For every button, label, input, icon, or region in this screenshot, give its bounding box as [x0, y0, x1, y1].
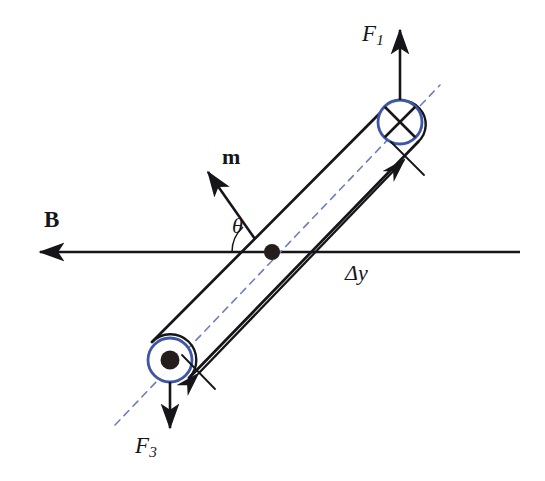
diagram-canvas — [0, 0, 545, 481]
physics-diagram: F1 F3 m B θ Δy — [0, 0, 545, 481]
loop-edge-lower-right — [189, 142, 418, 378]
pivot-point — [264, 244, 280, 260]
label-force-f1: F1 — [362, 22, 384, 47]
label-magnetic-moment: m — [222, 146, 240, 168]
separation-dimension — [182, 142, 424, 389]
label-force-f1-symbol: F — [362, 21, 376, 46]
current-into-page-marker — [378, 100, 422, 144]
pivot-dot-icon — [264, 244, 280, 260]
loop-edge-upper-left — [152, 107, 386, 342]
label-force-f1-subscript: 1 — [376, 31, 384, 48]
label-magnetic-field: B — [44, 208, 59, 231]
label-force-f3-subscript: 3 — [149, 443, 157, 460]
label-force-f3-symbol: F — [135, 433, 149, 458]
current-out-of-page-marker — [148, 338, 192, 382]
label-force-f3: F3 — [135, 434, 157, 459]
out-of-page-dot-icon — [161, 351, 180, 370]
label-angle-theta: θ — [232, 215, 243, 237]
label-separation-delta-y: Δy — [345, 262, 368, 284]
delta-y-tick-top — [391, 142, 424, 175]
